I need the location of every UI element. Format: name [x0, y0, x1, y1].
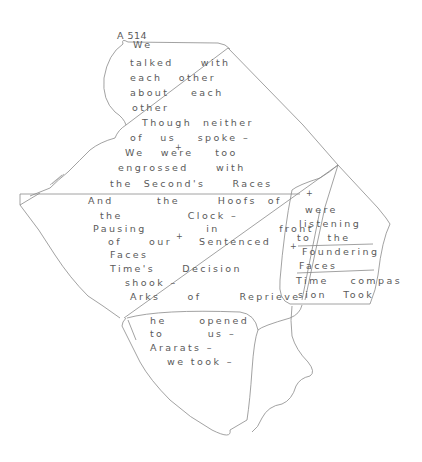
- manuscript-line: listening: [299, 218, 361, 229]
- manuscript-line: each other: [130, 72, 216, 83]
- manuscript-line: to the: [297, 232, 350, 243]
- manuscript-line: of us spoke –: [130, 132, 250, 143]
- manuscript-line: Though neither: [142, 117, 254, 128]
- manuscript-line: shook –: [125, 277, 178, 288]
- manuscript-line: the Second's Races: [110, 178, 273, 189]
- manuscript-line: Time compas: [296, 275, 402, 286]
- manuscript-line: were: [305, 204, 338, 215]
- manuscript-line: engrossed with: [118, 162, 246, 173]
- envelope-edge-left-upper: [30, 44, 126, 196]
- variant-plus-mark: +: [176, 232, 183, 241]
- variant-plus-mark: +: [306, 189, 313, 198]
- manuscript-line: Faces: [110, 249, 148, 260]
- manuscript-line: Ararats –: [150, 342, 214, 353]
- manuscript-line: the Clock –: [100, 210, 238, 221]
- manuscript-line: Time's Decision: [110, 263, 242, 274]
- manuscript-line: about each: [130, 87, 224, 98]
- manuscript-line: Faces: [299, 260, 337, 271]
- manuscript-line: he opened: [150, 315, 249, 326]
- manuscript-line: Foundering: [302, 246, 379, 257]
- manuscript-line: We: [133, 39, 152, 50]
- manuscript-line: talked with: [130, 57, 230, 68]
- manuscript-line: sion Took: [298, 289, 374, 300]
- manuscript-line: to us –: [150, 328, 236, 339]
- manuscript-line: Arks of Reprieve: [130, 291, 301, 302]
- variant-plus-mark: +: [175, 143, 182, 152]
- envelope-edge-lower-right: [252, 306, 313, 432]
- manuscript-line: other: [132, 102, 169, 113]
- manuscript-line: Pausing in front: [93, 223, 314, 234]
- manuscript-line: of our Sentenced: [108, 236, 271, 247]
- manuscript-line: we took –: [167, 356, 234, 367]
- manuscript-line: And the Hoofs of: [88, 195, 282, 206]
- variant-plus-mark: +: [290, 242, 297, 251]
